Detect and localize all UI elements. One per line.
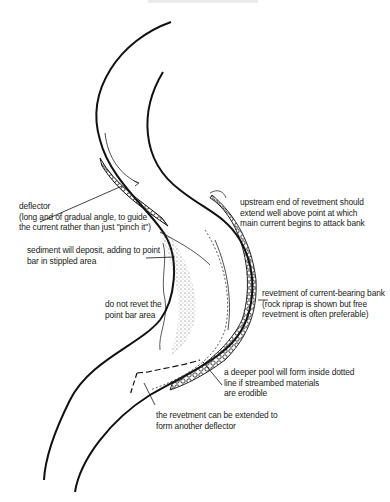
label-extend: the revetment can be extended to form an… [156, 410, 278, 431]
current-arrow [215, 240, 229, 330]
point-bar-stipple [160, 230, 196, 356]
brace-point-bar [160, 243, 166, 350]
label-pool: a deeper pool will form inside dotted li… [224, 367, 354, 399]
label-point-bar: do not revet the point bar area [105, 299, 162, 320]
label-upstream: upstream end of revetment should extend … [240, 197, 365, 229]
label-sediment: sediment will deposit, adding to point b… [27, 245, 160, 266]
label-deflector: deflector (long and of gradual angle, to… [19, 201, 151, 233]
extension-dashed-line [137, 360, 200, 373]
label-revetment: revetment of current-bearing bank (rock … [262, 288, 385, 320]
